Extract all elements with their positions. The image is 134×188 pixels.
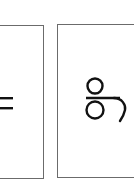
glyph-cell-equals[interactable]: = bbox=[0, 25, 44, 179]
glyph-cell-myanmar-ttha[interactable]: ဌ bbox=[57, 24, 134, 178]
equals-glyph-icon bbox=[0, 96, 14, 112]
glyph-char: ဌ bbox=[58, 25, 59, 26]
myanmar-ttha-glyph-icon bbox=[84, 77, 130, 127]
